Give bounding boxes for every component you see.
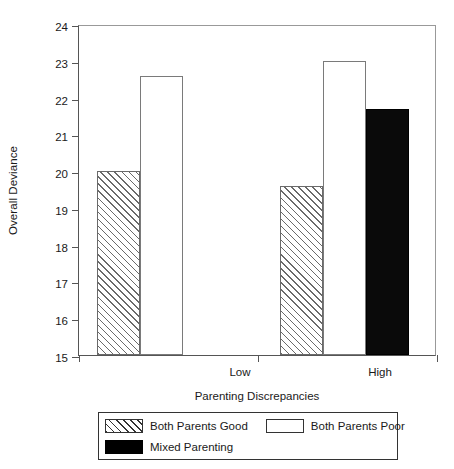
legend-label: Mixed Parenting [150, 440, 233, 454]
bar-chart: Overall Deviance 15161718192021222324Low… [0, 0, 454, 469]
bar [280, 186, 323, 355]
y-axis-tick: 24 [72, 26, 79, 27]
plot-area: 15161718192021222324LowHigh [78, 25, 436, 356]
legend-entry: Both Parents Good [105, 419, 248, 433]
x-axis-category-label: High [368, 366, 392, 378]
y-axis-tick-label: 17 [55, 276, 68, 292]
x-axis-tick [437, 355, 438, 362]
legend-label: Both Parents Poor [311, 419, 405, 433]
y-axis-tick-label: 18 [55, 240, 68, 256]
legend-swatch-black [105, 440, 143, 454]
y-axis-tick-label: 23 [55, 56, 68, 72]
y-axis-tick: 22 [72, 100, 79, 101]
x-axis-tick [258, 355, 259, 362]
y-axis-tick-label: 24 [55, 19, 68, 35]
bar [140, 76, 183, 356]
y-axis-tick-label: 19 [55, 203, 68, 219]
y-axis-tick: 20 [72, 173, 79, 174]
y-axis-tick-label: 20 [55, 166, 68, 182]
legend-entry: Mixed Parenting [105, 440, 233, 454]
y-axis-tick-label: 22 [55, 93, 68, 109]
y-axis-tick-label: 15 [55, 350, 68, 366]
y-axis-tick-label: 16 [55, 313, 68, 329]
x-axis-title: Parenting Discrepancies [78, 390, 436, 402]
x-axis-category-label: Low [229, 366, 250, 378]
y-axis-tick: 15 [72, 357, 79, 358]
y-axis-title: Overall Deviance [4, 25, 22, 356]
y-axis-tick: 23 [72, 63, 79, 64]
bar [323, 61, 366, 355]
y-axis-tick: 17 [72, 283, 79, 284]
bar [97, 171, 140, 355]
legend-row: Both Parents GoodBoth Parents Poor [105, 416, 405, 436]
y-axis-tick: 21 [72, 136, 79, 137]
legend-entry: Both Parents Poor [266, 419, 405, 433]
legend-swatch-hatch [105, 419, 143, 433]
y-axis-tick: 18 [72, 247, 79, 248]
legend-swatch-white [266, 419, 304, 433]
y-axis-tick: 16 [72, 320, 79, 321]
y-axis-tick-label: 21 [55, 129, 68, 145]
bar [366, 109, 409, 355]
legend-label: Both Parents Good [150, 419, 248, 433]
legend-row: Mixed Parenting [105, 437, 233, 457]
legend: Both Parents GoodBoth Parents Poor Mixed… [98, 412, 398, 460]
y-axis-tick: 19 [72, 210, 79, 211]
x-axis-tick [79, 355, 80, 362]
